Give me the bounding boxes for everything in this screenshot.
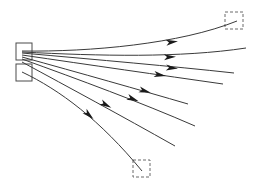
ray-1-line [22,21,237,51]
ray-7-arrowhead-icon [99,100,112,111]
ray-2-line [22,48,246,55]
ray-5-arrowhead-icon [138,86,151,95]
ray-5-line [22,57,188,104]
target-boxes [133,12,243,177]
ray-7-line [22,62,175,146]
arrowheads [83,38,179,121]
ray-3-arrowhead-icon [166,64,178,71]
ray-8-arrowhead-icon [83,109,96,121]
ray-4-arrowhead-icon [154,71,167,79]
ray-8-line [22,72,142,171]
ray-fan-diagram [0,0,258,189]
target-top-right-box [225,12,243,29]
rays [22,21,246,171]
